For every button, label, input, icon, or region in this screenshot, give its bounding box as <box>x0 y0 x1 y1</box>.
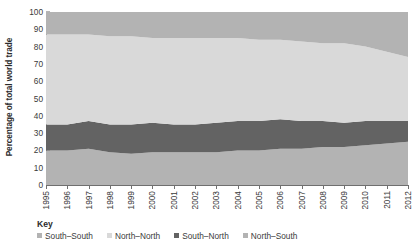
chart-container: Percentage of total world trade 01020304… <box>0 0 415 249</box>
y-tick-label: 20 <box>15 146 43 154</box>
y-axis-ticks: 0102030405060708090100 <box>10 12 43 185</box>
stacked-area-plot <box>46 12 408 185</box>
legend-items: South–SouthNorth–NorthSouth–NorthNorth–S… <box>37 232 407 240</box>
legend-item-label: South–North <box>182 232 229 240</box>
x-tick-label: 1995 <box>42 191 50 209</box>
x-tick-mark <box>302 185 303 189</box>
x-tick-label: 2001 <box>170 191 178 209</box>
legend-swatch-icon <box>174 233 179 238</box>
legend-title: Key <box>37 220 407 229</box>
legend-item[interactable]: South–North <box>174 232 229 240</box>
x-tick-mark <box>174 185 175 189</box>
legend-item-label: North–South <box>251 232 298 240</box>
x-tick-label: 1997 <box>85 191 93 209</box>
x-tick-label: 1996 <box>63 191 71 209</box>
x-tick-label: 2000 <box>148 191 156 209</box>
x-tick-mark <box>408 185 409 189</box>
x-tick-mark <box>110 185 111 189</box>
x-tick-label: 2011 <box>383 191 391 209</box>
x-tick-label: 2009 <box>340 191 348 209</box>
x-tick-mark <box>67 185 68 189</box>
legend-item[interactable]: South–South <box>37 232 93 240</box>
x-tick-label: 2007 <box>298 191 306 209</box>
x-tick-mark <box>280 185 281 189</box>
legend-swatch-icon <box>107 233 112 238</box>
y-tick-label: 100 <box>15 8 43 16</box>
x-tick-label: 2004 <box>234 191 242 209</box>
legend-item[interactable]: North–North <box>107 232 160 240</box>
x-tick-mark <box>216 185 217 189</box>
x-tick-mark <box>89 185 90 189</box>
x-tick-label: 2008 <box>319 191 327 209</box>
x-tick-mark <box>323 185 324 189</box>
x-tick-mark <box>131 185 132 189</box>
x-tick-label: 2003 <box>212 191 220 209</box>
legend-swatch-icon <box>37 233 42 238</box>
x-tick-mark <box>387 185 388 189</box>
y-tick-label: 70 <box>15 60 43 68</box>
y-tick-label: 90 <box>15 25 43 33</box>
y-tick-label: 50 <box>15 94 43 102</box>
x-tick-label: 2002 <box>191 191 199 209</box>
plot-area <box>46 12 408 185</box>
legend-item-label: North–North <box>115 232 160 240</box>
x-tick-mark <box>238 185 239 189</box>
x-tick-label: 1998 <box>106 191 114 209</box>
x-tick-label: 2006 <box>276 191 284 209</box>
x-tick-mark <box>259 185 260 189</box>
x-tick-label: 2005 <box>255 191 263 209</box>
x-tick-mark <box>365 185 366 189</box>
x-tick-mark <box>344 185 345 189</box>
chart-legend: Key South–SouthNorth–NorthSouth–NorthNor… <box>37 220 407 240</box>
legend-item-label: South–South <box>45 232 93 240</box>
x-axis-line <box>46 185 408 186</box>
y-tick-label: 40 <box>15 112 43 120</box>
x-tick-label: 1999 <box>127 191 135 209</box>
x-tick-label: 2010 <box>361 191 369 209</box>
y-tick-label: 30 <box>15 129 43 137</box>
x-tick-mark <box>195 185 196 189</box>
y-tick-label: 60 <box>15 77 43 85</box>
y-tick-label: 80 <box>15 42 43 50</box>
legend-swatch-icon <box>243 233 248 238</box>
y-tick-label: 10 <box>15 164 43 172</box>
area-series-north-north <box>46 34 408 124</box>
x-tick-mark <box>46 185 47 189</box>
y-tick-label: 0 <box>15 181 43 189</box>
x-tick-mark <box>152 185 153 189</box>
x-tick-label: 2012 <box>404 191 412 209</box>
legend-item[interactable]: North–South <box>243 232 298 240</box>
